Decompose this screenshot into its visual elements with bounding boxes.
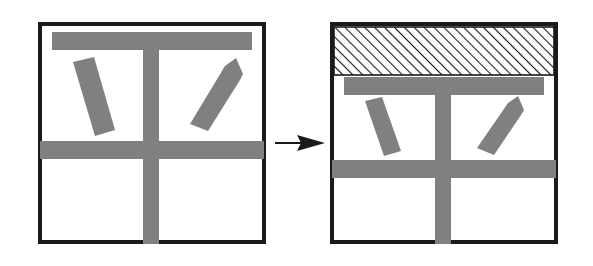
panel-after [332,24,556,244]
panel-after-hatched-band [334,27,554,75]
panel-before-transom [40,141,264,159]
diagram-canvas [0,0,593,266]
panel-before [40,24,264,244]
panel-after-transom [332,160,556,178]
panel-before-mullion [143,32,159,244]
schematic-svg [0,0,593,266]
